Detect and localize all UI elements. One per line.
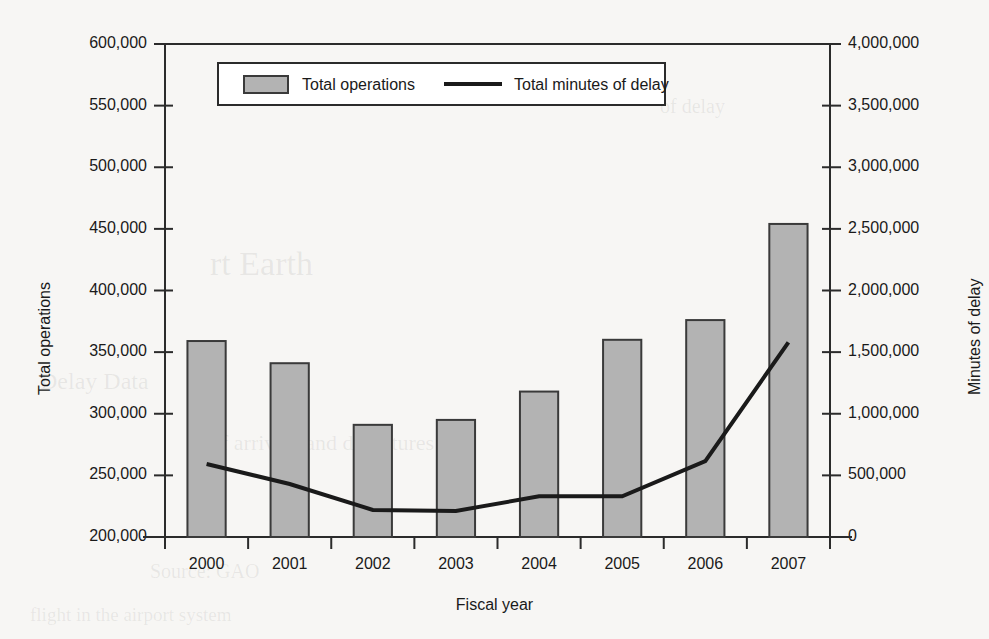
bar-2002 xyxy=(354,425,392,537)
legend-label-delay: Total minutes of delay xyxy=(514,76,669,93)
legend: Total operationsTotal minutes of delay xyxy=(218,63,669,105)
chart-page: rt Earth Delay Data of arrivals and depa… xyxy=(0,0,989,639)
legend-label-operations: Total operations xyxy=(302,76,415,93)
plot-area: Total operationsTotal minutes of delay xyxy=(0,0,989,639)
bar-2001 xyxy=(271,363,309,537)
combo-chart: Total operations Minutes of delay Fiscal… xyxy=(0,0,989,639)
bar-2005 xyxy=(603,340,641,537)
bar-2003 xyxy=(437,420,475,537)
bar-2004 xyxy=(520,392,558,537)
bar-2007 xyxy=(769,224,807,537)
bar-2006 xyxy=(686,320,724,537)
bar-2000 xyxy=(187,341,225,537)
